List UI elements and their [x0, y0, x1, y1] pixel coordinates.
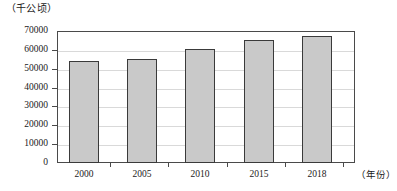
x-tick-label-2015: 2015 [250, 169, 269, 180]
x-tick-label-2005: 2005 [133, 169, 152, 180]
x-tick-label-2010: 2010 [191, 169, 210, 180]
x-tick-mark [227, 163, 228, 167]
x-tick-mark [110, 163, 111, 167]
x-tick-mark [285, 163, 286, 167]
x-axis-unit-label: （年份） [356, 169, 396, 180]
x-tick-mark [343, 163, 344, 167]
bar-chart-figure: （千公顷） 70000 60000 50000 40000 30000 2000… [0, 0, 397, 191]
x-tick-mark [168, 163, 169, 167]
x-axis: 2000 2005 2010 2015 2018 （年份） [0, 0, 397, 191]
x-tick-label-2018: 2018 [308, 169, 327, 180]
x-tick-label-2000: 2000 [75, 169, 94, 180]
